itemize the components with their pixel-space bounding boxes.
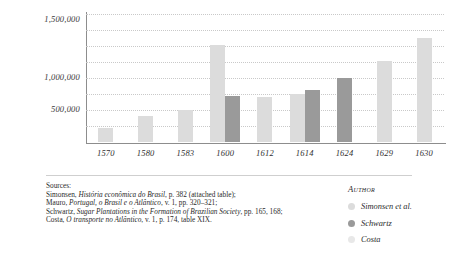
- bar: [138, 116, 153, 142]
- x-axis-tick-label: 1600: [205, 148, 245, 158]
- bar-group: [325, 14, 365, 142]
- bar-series-container: [86, 14, 444, 142]
- x-axis-tick-label: 1612: [245, 148, 285, 158]
- y-axis-tick-label: 1,500,000: [14, 14, 80, 24]
- chart-page: 1,500,000 1,000,000 500,000 157015801583…: [0, 0, 458, 277]
- bar-group: [364, 14, 404, 142]
- legend-item[interactable]: Costa: [348, 235, 458, 244]
- sources-list: Simonsen, História econômica do Brasil, …: [46, 191, 306, 225]
- bar-group: [166, 14, 206, 142]
- chart-legend: Author Simonsen et al.SchwartzCosta: [348, 184, 458, 252]
- legend-item[interactable]: Simonsen et al.: [348, 202, 458, 211]
- footer-divider: [46, 175, 412, 176]
- bar-chart: 1,500,000 1,000,000 500,000 157015801583…: [0, 0, 458, 170]
- source-line: Costa, O transporte no Atlântico, v. 1, …: [46, 216, 306, 225]
- legend-swatch-icon: [348, 236, 355, 243]
- bar-group: [86, 14, 126, 142]
- bar: [377, 61, 392, 142]
- bar: [225, 96, 240, 142]
- x-axis-tick-label: 1629: [364, 148, 404, 158]
- x-axis-tick-label: 1624: [325, 148, 365, 158]
- bar: [337, 78, 352, 142]
- x-axis-tick-label: 1630: [404, 148, 444, 158]
- bar: [98, 128, 113, 142]
- bar-group: [126, 14, 166, 142]
- bar: [417, 38, 432, 142]
- bar: [178, 110, 193, 142]
- legend-swatch-icon: [348, 220, 355, 227]
- legend-label: Costa: [361, 235, 381, 244]
- bar: [305, 90, 320, 142]
- legend-items: Simonsen et al.SchwartzCosta: [348, 202, 458, 244]
- x-axis-tick-label: 1570: [86, 148, 126, 158]
- legend-item[interactable]: Schwartz: [348, 219, 458, 228]
- legend-label: Simonsen et al.: [361, 202, 412, 211]
- sources-block: Sources: Simonsen, História econômica do…: [46, 182, 306, 225]
- bar: [210, 45, 225, 142]
- bar-group: [285, 14, 325, 142]
- legend-label: Schwartz: [361, 219, 392, 228]
- plot-region: [86, 14, 444, 142]
- bar-group: [245, 14, 285, 142]
- legend-title: Author: [348, 184, 458, 194]
- x-axis-tick-label: 1583: [166, 148, 206, 158]
- x-axis-tick-label: 1580: [126, 148, 166, 158]
- bar-group: [404, 14, 444, 142]
- bar: [257, 97, 272, 142]
- legend-swatch-icon: [348, 203, 355, 210]
- bar-group: [205, 14, 245, 142]
- y-axis-tick-label: 1,000,000: [14, 72, 80, 82]
- x-axis-tick-label: 1614: [285, 148, 325, 158]
- y-axis-tick-label: 500,000: [14, 104, 80, 114]
- x-axis-line: [86, 143, 446, 144]
- bar: [290, 94, 305, 142]
